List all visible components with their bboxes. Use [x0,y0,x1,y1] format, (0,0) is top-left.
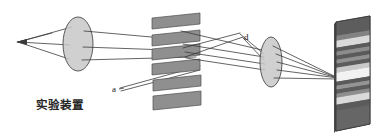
focusing-lens [260,37,282,87]
ray-arrow-head [16,39,27,45]
ray-a-label: a [112,85,116,94]
focused-ray-1 [273,46,338,78]
optics-diagram-figure: a d 实验装置 [0,0,385,139]
grating-bar-5 [153,75,201,91]
grating-bar-1 [152,13,200,29]
collimating-lens [63,17,93,71]
grating-bar-6 [153,91,201,110]
optics-diagram-canvas [0,0,385,139]
grating-spacing-label: d [244,33,249,42]
focused-ray-4 [277,70,338,78]
grating-bar-4 [152,59,200,75]
grating-bar-3 [152,44,200,60]
focused-ray-bundle [273,46,338,79]
grating-bar-2 [152,30,200,46]
focused-ray-5 [274,78,338,79]
figure-caption: 实验装置 [36,100,84,112]
focused-ray-2 [276,54,338,78]
diffraction-grating [152,13,201,110]
observation-screen [328,16,378,138]
focused-ray-3 [277,62,338,78]
